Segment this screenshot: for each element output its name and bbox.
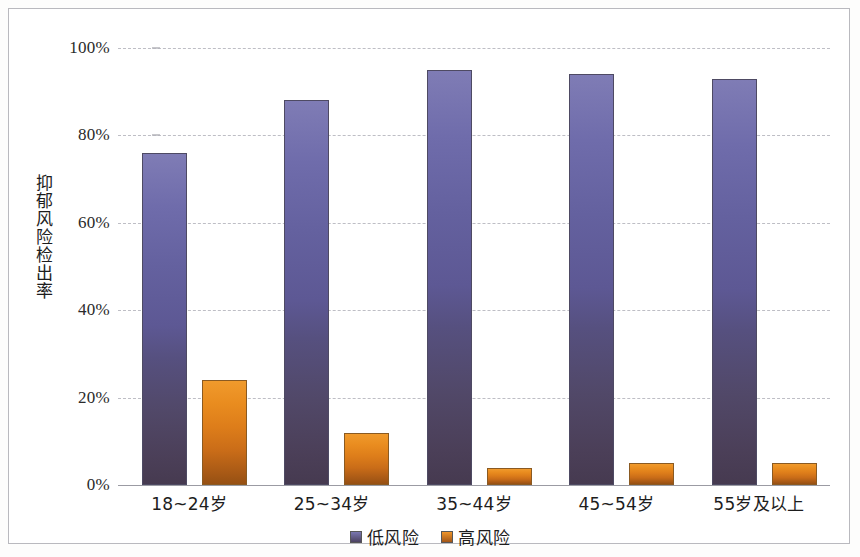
bar-high-risk bbox=[202, 380, 247, 485]
y-axis-tick-label: 0% bbox=[48, 475, 110, 495]
x-axis-tick-layer: 18~24岁25~34岁35~44岁45~54岁55岁及以上 bbox=[118, 488, 830, 522]
legend-entry-low-risk[interactable]: 低风险 bbox=[350, 524, 420, 549]
y-axis-tick-label: 40% bbox=[48, 300, 110, 320]
bar-group bbox=[142, 48, 260, 485]
bar-high-risk bbox=[344, 433, 389, 485]
bar-group bbox=[712, 48, 830, 485]
x-axis-tick-label: 18~24岁 bbox=[118, 490, 260, 515]
x-axis-tick-label: 55岁及以上 bbox=[688, 490, 830, 515]
legend-entry-high-risk[interactable]: 高风险 bbox=[441, 524, 511, 549]
legend-swatch-icon bbox=[350, 531, 362, 543]
bar-high-risk bbox=[629, 463, 674, 485]
y-axis-tick-label: 80% bbox=[48, 125, 110, 145]
y-axis-tick-label: 60% bbox=[48, 213, 110, 233]
x-axis-tick-label: 35~44岁 bbox=[403, 490, 545, 515]
bar-high-risk bbox=[487, 468, 532, 485]
y-axis-tick-label: 100% bbox=[48, 38, 110, 58]
plot-area bbox=[118, 48, 830, 485]
x-axis-tick-label: 45~54岁 bbox=[545, 490, 687, 515]
bar-group bbox=[569, 48, 687, 485]
bar-low-risk bbox=[427, 70, 472, 485]
chart-legend: 低风险高风险 bbox=[0, 524, 860, 549]
bar-low-risk bbox=[712, 79, 757, 485]
x-axis-tick-label: 25~34岁 bbox=[260, 490, 402, 515]
bar-low-risk bbox=[569, 74, 614, 485]
bar-group bbox=[427, 48, 545, 485]
bar-low-risk bbox=[284, 100, 329, 485]
chart-figure: 抑郁风险检出率 0%20%40%60%80%100% 18~24岁25~34岁3… bbox=[0, 0, 860, 557]
y-axis-tick-layer: 0%20%40%60%80%100% bbox=[40, 48, 110, 485]
legend-label: 高风险 bbox=[458, 524, 511, 549]
gridline-0 bbox=[118, 485, 830, 486]
bar-group bbox=[284, 48, 402, 485]
legend-label: 低风险 bbox=[367, 524, 420, 549]
legend-swatch-icon bbox=[441, 531, 453, 543]
bar-low-risk bbox=[142, 153, 187, 485]
bar-high-risk bbox=[772, 463, 817, 485]
y-axis-tick-label: 20% bbox=[48, 388, 110, 408]
